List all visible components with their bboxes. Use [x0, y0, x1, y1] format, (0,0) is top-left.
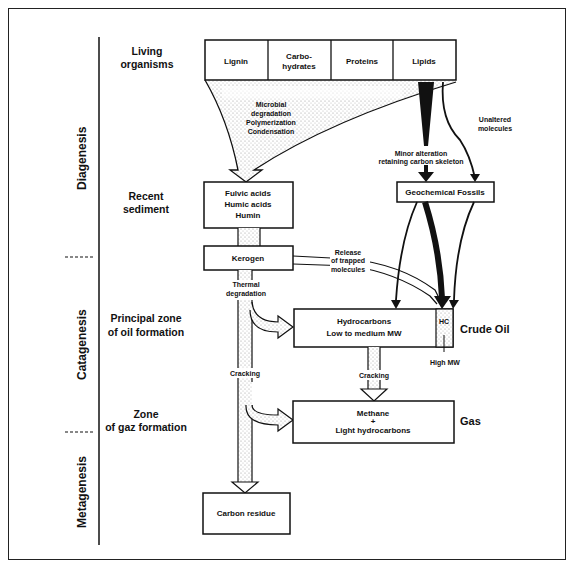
label-cracking-main: Cracking [226, 368, 266, 378]
minor-alteration-arrowhead [418, 165, 434, 182]
svg-text:molecules: molecules [331, 266, 365, 273]
source-lignin: Lignin [224, 57, 248, 66]
label-hc: HC [439, 318, 449, 325]
zone-living-organisms: Living organisms [120, 45, 173, 70]
thermal-degradation-arrow [250, 302, 293, 338]
label-humin: Humin [236, 211, 261, 220]
svg-text:of trapped: of trapped [331, 257, 365, 265]
svg-text:of oil formation: of oil formation [108, 326, 184, 338]
zone-recent-sediment: Recent sediment [123, 190, 170, 215]
svg-text:Thermal: Thermal [232, 281, 259, 288]
zone-gas-formation: Zone of gaz formation [105, 408, 187, 433]
svg-text:Zone: Zone [133, 408, 158, 420]
svg-text:Carbo-: Carbo- [286, 52, 312, 61]
label-high-mw: High MW [430, 359, 460, 367]
svg-text:Hydrocarbons: Hydrocarbons [337, 317, 392, 326]
arrow-to-carbon-residue [232, 482, 258, 493]
source-proteins: Proteins [346, 57, 379, 66]
cracking-arrow-to-gas [361, 389, 387, 401]
stage-diagenesis: Diagenesis [75, 126, 89, 190]
svg-text:organisms: organisms [120, 58, 173, 70]
svg-text:Cracking: Cracking [359, 372, 389, 380]
svg-text:molecules: molecules [478, 125, 512, 132]
svg-text:Light hydrocarbons: Light hydrocarbons [335, 426, 411, 435]
svg-text:Cracking: Cracking [230, 370, 260, 378]
fossils-to-hydrocarbons-arrow [396, 202, 417, 300]
svg-text:Carbon residue: Carbon residue [217, 509, 276, 518]
svg-text:Minor alteration: Minor alteration [395, 150, 448, 157]
svg-text:Living: Living [132, 45, 163, 57]
svg-text:Kerogen: Kerogen [232, 254, 265, 263]
svg-text:Microbial: Microbial [256, 101, 287, 108]
stage-catagenesis: Catagenesis [75, 309, 89, 380]
svg-text:of gaz formation: of gaz formation [105, 421, 187, 433]
label-release-trapped: Release of trapped molecules [330, 249, 370, 276]
cracking-to-gas-arrow [246, 405, 293, 431]
svg-text:degradation: degradation [226, 290, 266, 298]
stage-metagenesis: Metagenesis [75, 456, 89, 528]
label-minor-alteration: Minor alteration retaining carbon skelet… [378, 150, 463, 166]
label-gas: Gas [460, 415, 481, 427]
svg-text:degradation: degradation [251, 110, 291, 118]
label-crude-oil: Crude Oil [460, 323, 510, 335]
fossils-to-hc-thick-arrow [425, 202, 442, 298]
svg-text:Unaltered: Unaltered [479, 116, 511, 123]
svg-text:+: + [371, 417, 376, 426]
label-cracking-hydrocarbons: Cracking [354, 370, 394, 380]
svg-text:Recent: Recent [128, 190, 164, 202]
svg-text:Geochemical Fossils: Geochemical Fossils [405, 188, 485, 197]
source-lipids: Lipids [412, 57, 436, 66]
svg-text:Principal zone: Principal zone [110, 312, 181, 324]
svg-text:Low to medium MW: Low to medium MW [326, 329, 402, 338]
label-thermal-degradation: Thermal degradation [224, 280, 268, 300]
svg-text:Condensation: Condensation [248, 128, 295, 135]
svg-text:retaining carbon skeleton: retaining carbon skeleton [378, 158, 463, 166]
svg-text:hydrates: hydrates [282, 62, 316, 71]
zone-oil-formation: Principal zone of oil formation [108, 312, 184, 338]
svg-text:Release: Release [335, 249, 362, 256]
box-hydrocarbons [294, 309, 453, 347]
source-carbohydrates: Carbo- hydrates [282, 52, 316, 71]
petroleum-formation-diagram: Diagenesis Catagenesis Metagenesis Livin… [0, 0, 575, 572]
label-humic-acids: Humic acids [224, 200, 272, 209]
minor-alteration-wedge [418, 82, 434, 146]
svg-text:sediment: sediment [123, 203, 170, 215]
svg-text:Polymerization: Polymerization [246, 119, 296, 127]
label-unaltered-molecules: Unaltered molecules [478, 116, 512, 132]
label-fulvic-acids: Fulvic acids [225, 189, 271, 198]
fossils-to-hc-right-arrow [454, 202, 474, 300]
